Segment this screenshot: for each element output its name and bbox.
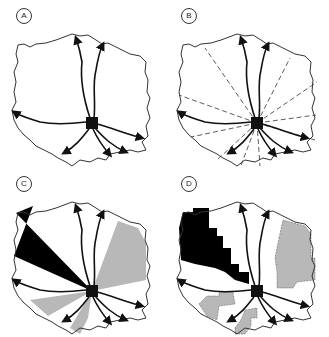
panel-a: A (0, 0, 164, 168)
panel-d: D (165, 168, 329, 336)
catchment-diagram (0, 0, 164, 168)
catchment-diagram (165, 0, 329, 168)
panel-c: C (0, 168, 164, 336)
catchment-diagram (0, 168, 164, 336)
panel-b: B (165, 0, 329, 168)
catchment-diagram (165, 168, 329, 336)
